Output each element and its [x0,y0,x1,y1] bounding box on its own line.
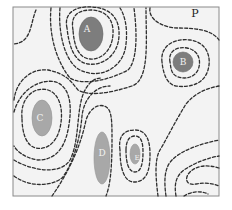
region-a-label: A [83,24,91,34]
region-b: B [173,52,193,72]
region-a: A [79,17,103,51]
region-d: D [94,132,110,184]
corner-label-p: P [191,7,199,20]
region-e: E [130,144,140,164]
contour-diagram: A B C D E P [0,0,232,210]
region-c: C [32,100,52,136]
region-b-label: B [180,57,187,67]
region-e-label: E [134,154,139,162]
region-c-label: C [37,113,44,123]
region-d-label: D [98,148,105,158]
